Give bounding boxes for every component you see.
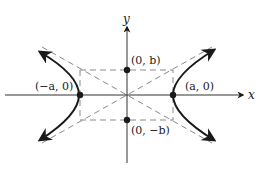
vertex-left-label: (−a, 0) — [35, 80, 73, 93]
x-axis-label: x — [248, 88, 255, 102]
covertex-top-point — [124, 67, 130, 73]
vertex-right-label: (a, 0) — [185, 80, 214, 93]
hyperbola-right-branch-lower — [173, 95, 214, 140]
y-axis-label: y — [122, 12, 130, 26]
covertex-bottom-point — [124, 117, 130, 123]
covertex-bottom-label: (0, −b) — [131, 124, 170, 137]
covertex-top-label: (0, b) — [131, 54, 161, 67]
vertex-right-point — [170, 92, 176, 98]
vertex-left-point — [77, 92, 83, 98]
hyperbola-diagram: y x (−a, 0) (a, 0) (0, b) (0, −b) — [0, 0, 269, 170]
